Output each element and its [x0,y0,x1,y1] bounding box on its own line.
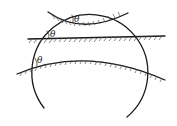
theta-label-bottom: θ [37,55,43,65]
theta-label-middle: θ [50,29,56,39]
diagram-canvas: θ θ θ [0,0,177,126]
theta-label-top: θ [74,14,80,24]
